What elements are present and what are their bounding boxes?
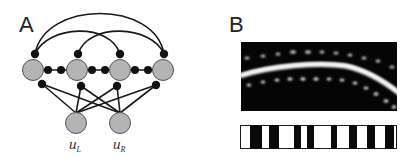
barcode-stripe xyxy=(385,125,394,149)
barcode-stripe xyxy=(250,125,262,149)
panel-b-graphics xyxy=(0,0,408,162)
barcode xyxy=(241,125,397,149)
barcode-stripe xyxy=(307,125,314,149)
barcode-stripe xyxy=(367,125,375,149)
barcode-stripe xyxy=(349,125,357,149)
barcode-stripe xyxy=(269,125,279,149)
barcode-stripe xyxy=(331,125,337,149)
barcode-stripe xyxy=(294,125,301,149)
